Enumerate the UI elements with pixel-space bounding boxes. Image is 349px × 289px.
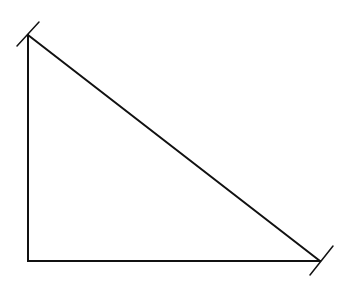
diagram-canvas — [0, 0, 349, 289]
hypotenuse-line — [28, 35, 320, 261]
right-triangle-diagram — [0, 0, 349, 289]
